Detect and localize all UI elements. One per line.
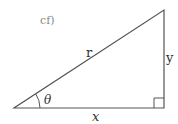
right-angle-marker <box>154 98 164 108</box>
adjacent-label: x <box>92 109 100 124</box>
right-triangle-diagram: cf) θ r y x <box>0 0 178 124</box>
angle-arc <box>36 94 40 108</box>
angle-label: θ <box>44 93 52 107</box>
hypotenuse-label: r <box>86 45 93 60</box>
caption: cf) <box>40 14 55 27</box>
opposite-label: y <box>165 50 174 65</box>
